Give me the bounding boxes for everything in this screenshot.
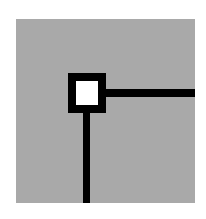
junction-node-icon [68,73,106,113]
horizontal-connector-line [106,89,195,97]
junction-node-center [76,81,98,105]
vertical-connector-line [83,113,90,203]
diagram-canvas [0,0,206,219]
